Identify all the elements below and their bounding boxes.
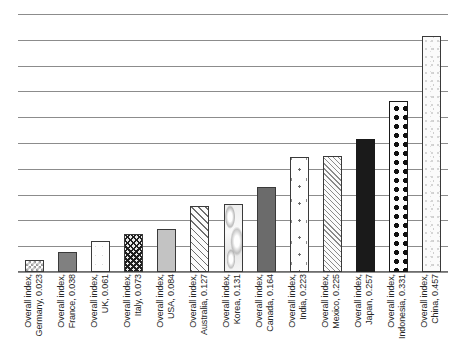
bar-indonesia[interactable] — [389, 101, 408, 272]
category-label-japan: Overall index,Japan, 0.257 — [353, 274, 377, 358]
category-label-uk: Overall index,UK, 0.061 — [89, 274, 113, 358]
category-label-india: Overall index,India, 0.223 — [287, 274, 311, 358]
category-label-country-value: China, 0.457 — [430, 274, 441, 358]
category-label-series: Overall index, — [122, 274, 133, 358]
bar-chart: Overall index,Germany, 0.023Overall inde… — [0, 0, 461, 360]
category-label-country-value: UK, 0.061 — [100, 274, 111, 358]
category-label-usa: Overall index,USA, 0.084 — [155, 274, 179, 358]
bar-korea[interactable] — [224, 204, 243, 272]
category-label-indonesia: Overall index,Indonesia, 0.331 — [386, 274, 410, 358]
category-label-series: Overall index, — [419, 274, 430, 358]
category-label-series: Overall index, — [353, 274, 364, 358]
category-label-series: Overall index, — [89, 274, 100, 358]
bar-italy[interactable] — [124, 234, 143, 272]
category-label-series: Overall index, — [254, 274, 265, 358]
category-label-country-value: Mexico, 0.225 — [331, 274, 342, 358]
category-label-italy: Overall index,Italy, 0.073 — [122, 274, 146, 358]
category-label-korea: Overall index,Korea, 0.131 — [221, 274, 245, 358]
category-label-series: Overall index, — [56, 274, 67, 358]
category-label-country-value: Korea, 0.131 — [232, 274, 243, 358]
category-label-country-value: Japan, 0.257 — [364, 274, 375, 358]
bar-japan[interactable] — [356, 139, 375, 272]
bar-india[interactable] — [290, 157, 309, 272]
bar-germany[interactable] — [25, 260, 44, 272]
category-label-france: Overall index,France, 0.038 — [56, 274, 80, 358]
category-label-series: Overall index, — [221, 274, 232, 358]
bar-china[interactable] — [422, 36, 441, 272]
bar-france[interactable] — [58, 252, 77, 272]
category-label-country-value: Indonesia, 0.331 — [397, 274, 408, 358]
category-label-country-value: India, 0.223 — [298, 274, 309, 358]
category-label-series: Overall index, — [320, 274, 331, 358]
bar-uk[interactable] — [91, 241, 110, 272]
category-label-country-value: Canada, 0.164 — [265, 274, 276, 358]
category-label-china: Overall index,China, 0.457 — [419, 274, 443, 358]
category-label-country-value: USA, 0.084 — [166, 274, 177, 358]
category-labels: Overall index,Germany, 0.023Overall inde… — [18, 274, 448, 360]
bar-australia[interactable] — [190, 206, 209, 272]
gridline — [18, 272, 448, 273]
category-label-series: Overall index, — [23, 274, 34, 358]
category-label-country-value: Australia, 0.127 — [199, 274, 210, 358]
category-label-series: Overall index, — [386, 274, 397, 358]
category-label-country-value: France, 0.038 — [67, 274, 78, 358]
bar-mexico[interactable] — [323, 156, 342, 272]
category-label-mexico: Overall index,Mexico, 0.225 — [320, 274, 344, 358]
category-label-series: Overall index, — [188, 274, 199, 358]
category-label-canada: Overall index,Canada, 0.164 — [254, 274, 278, 358]
bars-layer — [18, 14, 448, 272]
category-label-country-value: Germany, 0.023 — [34, 274, 45, 358]
category-label-country-value: Italy, 0.073 — [133, 274, 144, 358]
bar-usa[interactable] — [157, 229, 176, 272]
bar-canada[interactable] — [257, 187, 276, 272]
category-label-germany: Overall index,Germany, 0.023 — [23, 274, 47, 358]
category-label-series: Overall index, — [155, 274, 166, 358]
category-label-australia: Overall index,Australia, 0.127 — [188, 274, 212, 358]
category-label-series: Overall index, — [287, 274, 298, 358]
